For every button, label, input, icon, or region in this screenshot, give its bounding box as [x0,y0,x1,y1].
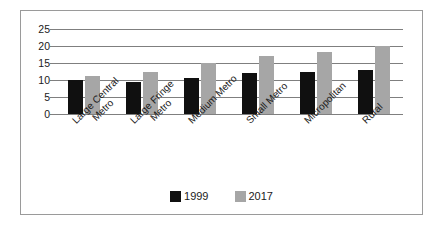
chart-legend: 19992017 [21,191,422,202]
y-tick-label-20: 20 [38,41,50,52]
bar-group [287,29,345,114]
y-tick-label-10: 10 [38,75,50,86]
bar-group [171,29,229,114]
chart-frame: 0510152025 Large CentralMetroLarge Fring… [20,10,423,215]
legend-item: 1999 [170,191,208,202]
legend-swatch-2017 [235,191,246,202]
bar-group [345,29,403,114]
legend-label-2017: 2017 [249,191,273,202]
y-tick-label-0: 0 [44,109,50,120]
legend-label-1999: 1999 [184,191,208,202]
legend-swatch-1999 [170,191,181,202]
y-tick-label-25: 25 [38,24,50,35]
legend-item: 2017 [235,191,273,202]
bar-group [229,29,287,114]
x-axis-category-labels: Large CentralMetroLarge FringeMetroMediu… [55,114,403,184]
y-tick-label-15: 15 [38,58,50,69]
y-tick-label-5: 5 [44,92,50,103]
